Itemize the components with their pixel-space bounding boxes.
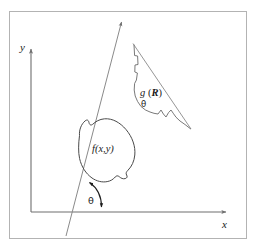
- y-axis-label: y: [20, 42, 25, 53]
- x-axis-label: x: [222, 219, 227, 230]
- projection-subscript-theta: θ: [141, 100, 146, 109]
- figure-canvas: [0, 0, 258, 250]
- radon-transform-figure: y x f(x,y) g (R) θ θ: [0, 0, 258, 250]
- projection-function-label: g (R): [140, 88, 162, 99]
- object-function-label: f(x,y): [92, 144, 114, 155]
- projection-function-paren-close: ): [158, 87, 162, 98]
- figure-border: [10, 12, 247, 239]
- angle-theta-label: θ: [88, 196, 94, 206]
